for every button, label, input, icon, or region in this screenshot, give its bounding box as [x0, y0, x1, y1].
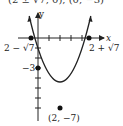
x-axis-label: x	[106, 33, 111, 43]
y-intercept-label: −3	[22, 63, 36, 73]
y-intercept-point	[36, 66, 41, 71]
right-intercept-label: 2 + √7	[89, 43, 120, 53]
left-intercept-label: 2 − √7	[4, 43, 35, 53]
vertex-label: (2, −7)	[48, 113, 80, 123]
curve-arrow-right	[89, 16, 93, 22]
y-axis-label: y	[38, 9, 45, 19]
parabola-graph: y x 2 − √7 2 + √7 −3 (2, −7)	[0, 0, 123, 126]
curve-arrow-left	[27, 16, 31, 22]
right-intercept-point	[87, 36, 92, 41]
vertex-point	[58, 106, 63, 111]
left-intercept-point	[29, 36, 34, 41]
